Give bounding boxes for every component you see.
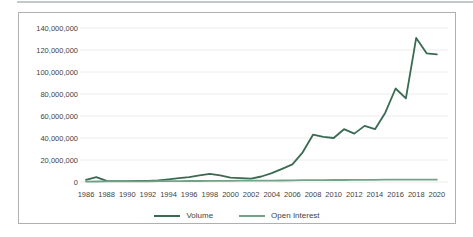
x-axis-tick-label: 2008	[305, 190, 322, 199]
x-axis-tick-label: 1998	[201, 190, 218, 199]
top-divider	[17, 1, 473, 3]
x-axis-tick-label: 2002	[243, 190, 260, 199]
chart-frame: 140,000,000120,000,000100,000,00080,000,…	[18, 12, 456, 224]
x-axis-tick-label: 2014	[367, 190, 384, 199]
legend-label: Volume	[186, 211, 213, 220]
x-axis-tick-label: 1988	[98, 190, 115, 199]
volume-legend-line-marker	[154, 215, 180, 217]
x-axis-tick-label: 2012	[346, 190, 363, 199]
x-axis-tick-label: 2000	[222, 190, 239, 199]
y-axis-tick-label: 120,000,000	[36, 46, 78, 55]
y-axis-tick-label: 80,000,000	[40, 90, 78, 99]
legend-label: Open Interest	[271, 211, 319, 220]
x-axis-tick-label: 1992	[140, 190, 157, 199]
x-axis-tick-label: 2018	[408, 190, 425, 199]
x-axis-tick-label: 2016	[387, 190, 404, 199]
legend-item-volume: Volume	[154, 211, 213, 220]
x-axis-tick-label: 1996	[181, 190, 198, 199]
open-interest-line	[86, 180, 437, 182]
y-axis-tick-label: 60,000,000	[40, 112, 78, 121]
y-axis-tick-label: 100,000,000	[36, 68, 78, 77]
x-axis-tick-label: 1986	[78, 190, 95, 199]
chart-svg: 140,000,000120,000,000100,000,00080,000,…	[19, 13, 455, 223]
chart-legend: VolumeOpen Interest	[19, 211, 455, 220]
x-axis-tick-label: 2006	[284, 190, 301, 199]
y-axis-tick-label: 0	[74, 178, 78, 187]
x-axis-tick-label: 1990	[119, 190, 136, 199]
legend-item-open-interest: Open Interest	[239, 211, 319, 220]
x-axis-tick-label: 2004	[263, 190, 280, 199]
y-axis-tick-label: 40,000,000	[40, 134, 78, 143]
y-axis-tick-label: 20,000,000	[40, 156, 78, 165]
x-axis-tick-label: 1994	[160, 190, 177, 199]
y-axis-tick-label: 140,000,000	[36, 24, 78, 33]
x-axis-tick-label: 2010	[325, 190, 342, 199]
x-axis-tick-label: 2020	[429, 190, 446, 199]
open-interest-legend-line-marker	[239, 215, 265, 217]
